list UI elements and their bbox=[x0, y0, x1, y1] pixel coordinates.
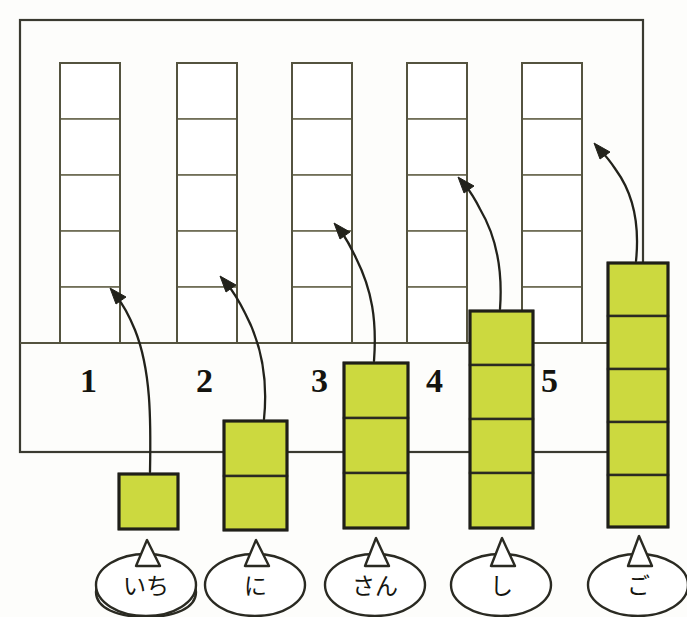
cube-stack-4 bbox=[470, 311, 533, 528]
speech-bubble-text-3: さん bbox=[352, 573, 398, 599]
grid-column-4 bbox=[407, 63, 467, 343]
cube-stack-1 bbox=[119, 474, 178, 529]
grid-column-1 bbox=[60, 63, 120, 343]
speech-bubble-2[interactable]: に bbox=[205, 540, 305, 616]
column-number-4: 4 bbox=[426, 362, 443, 399]
grid-column-5 bbox=[522, 63, 582, 343]
speech-bubble-text-2: に bbox=[244, 573, 267, 599]
worksheet-canvas: 1 2 3 4 5 bbox=[0, 0, 687, 617]
speech-bubble-text-1: いち bbox=[123, 573, 169, 599]
pointer-arrow-5 bbox=[594, 143, 637, 261]
speech-bubble-text-4: し bbox=[490, 573, 513, 599]
grid-column-3 bbox=[292, 63, 352, 343]
column-number-1: 1 bbox=[80, 362, 97, 399]
grid-column-2 bbox=[177, 63, 237, 343]
arrow-head-5 bbox=[594, 143, 610, 159]
cube-stack-5 bbox=[608, 263, 668, 527]
column-number-2: 2 bbox=[196, 362, 213, 399]
speech-bubble-4[interactable]: し bbox=[451, 538, 551, 616]
speech-bubble-5[interactable]: ご bbox=[588, 536, 687, 616]
cube-stack-3 bbox=[344, 363, 408, 528]
column-number-3: 3 bbox=[311, 362, 328, 399]
speech-bubble-1[interactable]: いち bbox=[96, 540, 196, 617]
column-number-5: 5 bbox=[541, 362, 558, 399]
diagram-root: 1 2 3 4 5 bbox=[0, 0, 687, 617]
speech-bubble-text-5: ご bbox=[627, 573, 650, 599]
speech-bubble-3[interactable]: さん bbox=[325, 538, 425, 616]
cube-stack-2 bbox=[224, 421, 287, 530]
